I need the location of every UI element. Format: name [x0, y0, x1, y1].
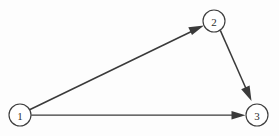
edge-2-to-3[interactable]: [220, 30, 251, 101]
edge-1-to-3-arrowhead: [232, 111, 246, 119]
edge-1-to-2-shaft: [30, 31, 193, 110]
node-group: 1 2 3: [9, 10, 268, 126]
edge-2-to-3-shaft: [220, 30, 246, 88]
node-2-label: 2: [211, 16, 217, 28]
node-1-label: 1: [17, 110, 23, 122]
node-3[interactable]: 3: [246, 104, 268, 126]
edge-1-to-2[interactable]: [30, 25, 204, 109]
node-2[interactable]: 2: [203, 10, 225, 32]
edge-1-to-2-arrowhead: [188, 25, 204, 35]
node-3-label: 3: [254, 110, 260, 122]
edge-2-to-3-arrowhead: [241, 85, 251, 101]
diagram-canvas: 1 2 3: [0, 0, 279, 136]
edge-group: [30, 25, 252, 119]
edge-1-to-3[interactable]: [31, 111, 245, 119]
node-1[interactable]: 1: [9, 104, 31, 126]
directed-graph: 1 2 3: [0, 0, 279, 136]
